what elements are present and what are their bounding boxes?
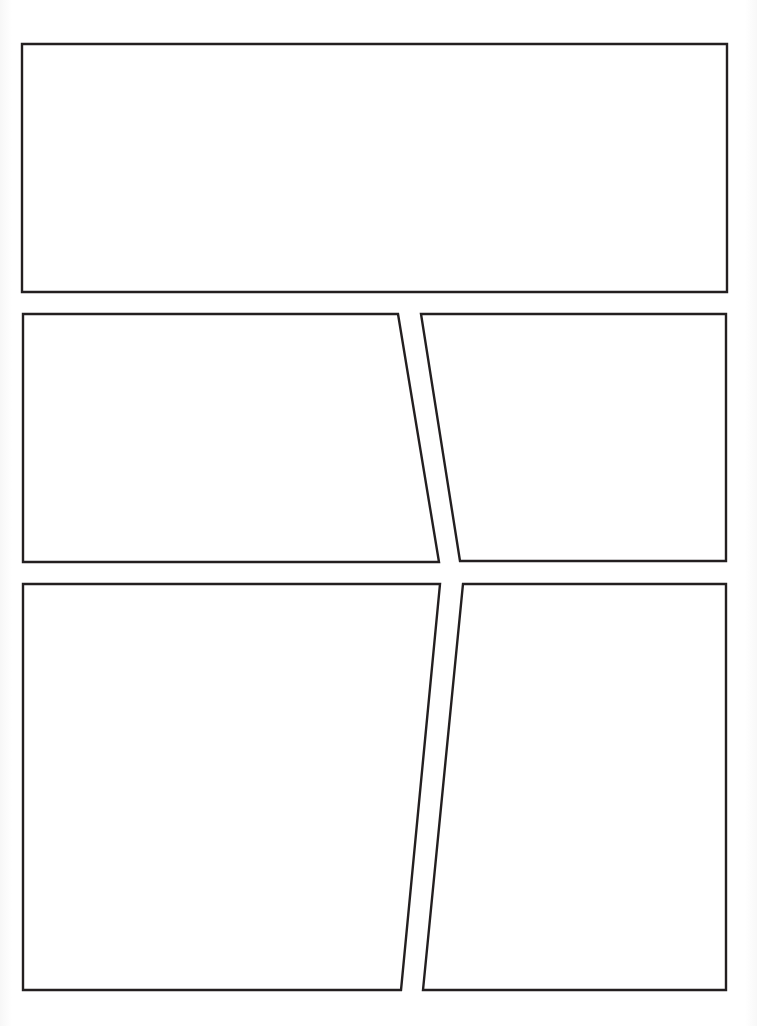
panel-5-bottom-right [423, 584, 726, 990]
panel-4-bottom-left [23, 584, 440, 990]
comic-page [0, 0, 757, 1026]
panel-2-middle-left [23, 314, 439, 562]
panel-1-wide-top [22, 44, 727, 292]
panel-3-middle-right [421, 314, 726, 561]
panel-layout [0, 0, 757, 1026]
